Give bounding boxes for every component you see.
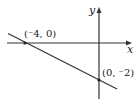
y-axis-label: y [88, 4, 96, 17]
coordinate-diagram: y x (⁻4, 0) (0, ⁻2) [0, 0, 134, 106]
point-label-y-intercept: (0, ⁻2) [102, 67, 134, 78]
point-label-x-intercept: (⁻4, 0) [24, 28, 56, 39]
y-axis-arrow-icon [97, 7, 102, 13]
y-axis [97, 7, 102, 99]
x-axis-label: x [127, 43, 134, 56]
point-x-intercept [23, 41, 26, 44]
point-y-intercept [97, 78, 100, 81]
